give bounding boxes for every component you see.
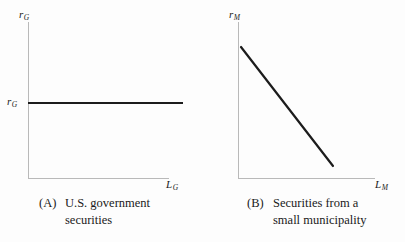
panel-b-x-axis [238,178,375,179]
panel-b-caption-tag: (B) [247,195,273,212]
panel-b-x-axis-title-subscript: M [382,183,388,192]
panel-a-y-axis-value: rG [7,96,17,107]
panel-a: rG rG LG (A)U.S. government securities [0,0,202,242]
panel-a-caption: (A)U.S. government securities [39,195,150,229]
panel-a-y-axis-title-subscript: G [24,13,29,22]
panel-a-caption-tag: (A) [39,195,65,212]
panel-a-x-axis-title: LG [166,179,178,190]
panel-a-y-axis-title: rG [19,9,29,20]
panel-a-x-axis-title-symbol: L [166,178,172,190]
panel-a-caption-line2: securities [65,212,150,229]
figure-container: rG rG LG (A)U.S. government securities r… [0,0,405,242]
panel-a-x-axis-title-subscript: G [173,183,178,192]
panel-a-caption-line1: U.S. government [65,196,150,210]
panel-b-y-axis [238,22,239,179]
panel-b-y-axis-title: rM [229,9,240,20]
panel-b-x-axis-title: LM [375,179,387,190]
panel-a-flat-curve [28,102,183,104]
panel-a-y-axis-value-symbol: r [7,95,11,107]
panel-b-y-axis-title-subscript: M [234,13,240,22]
panel-b-x-axis-title-symbol: L [375,178,381,190]
panel-a-y-axis-title-symbol: r [19,8,23,20]
panel-b-y-axis-title-symbol: r [229,8,233,20]
panel-b-caption-line2: small municipality [273,212,366,229]
panel-a-y-axis [28,22,29,179]
panel-a-y-axis-value-subscript: G [12,100,17,109]
panel-b-caption-line1: Securities from a [273,196,358,210]
panel-a-x-axis [28,178,169,179]
panel-b-caption: (B)Securities from a small municipality [247,195,366,229]
panel-b: rM LM (B)Securities from a small municip… [203,0,405,242]
